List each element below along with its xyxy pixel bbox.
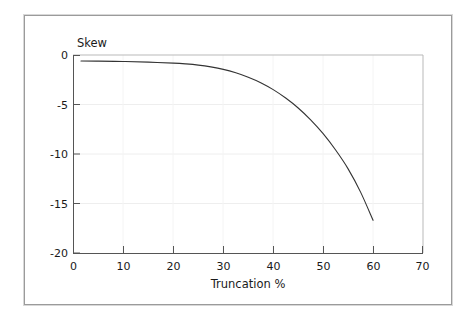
x-axis-ticks [74,246,423,253]
y-axis-title: Skew [77,36,107,50]
y-axis-ticks [73,56,80,254]
gridlines-horizontal [73,105,423,204]
x-tick-label-20: 20 [167,260,181,273]
figure-root: 0 -5 -10 -15 -20 0 10 20 30 40 50 60 70 … [0,0,475,322]
y-tick-label-0: 0 [61,49,68,62]
x-tick-label-0: 0 [70,260,77,273]
x-tick-label-40: 40 [267,260,281,273]
y-tick-label-minus15: -15 [50,198,68,211]
y-tick-label-minus20: -20 [50,247,68,260]
x-tick-label-30: 30 [217,260,231,273]
data-series-line [81,61,373,220]
x-tick-label-10: 10 [117,260,131,273]
x-tick-label-60: 60 [367,260,381,273]
skew-truncation-line-chart: 0 -5 -10 -15 -20 0 10 20 30 40 50 60 70 … [0,0,475,322]
x-axis-title: Truncation % [210,277,286,291]
x-tick-label-50: 50 [317,260,331,273]
y-tick-label-minus5: -5 [57,99,68,112]
y-tick-label-minus10: -10 [50,148,68,161]
x-tick-label-70: 70 [416,260,430,273]
